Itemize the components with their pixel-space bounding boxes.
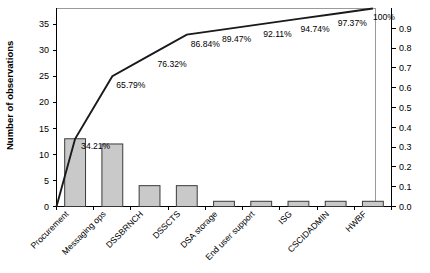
y2-tick-label-0: 0.0 (399, 202, 412, 212)
percent-label-2: 76.32% (158, 59, 188, 69)
percent-label-0: 34.21% (81, 141, 111, 151)
percent-label-8: 100% (373, 12, 395, 22)
y-tick-label-1: 5 (44, 176, 49, 186)
y-tick-label-6: 30 (39, 45, 49, 55)
percent-label-6: 94.74% (300, 24, 330, 34)
chart-canvas: Number of observations 05101520253035 0.… (0, 0, 430, 273)
bar-1 (102, 144, 123, 207)
y-tick-label-5: 25 (39, 71, 49, 81)
percent-label-1: 65.79% (116, 80, 146, 90)
percent-label-4: 89.47% (222, 34, 252, 44)
y-tick-label-4: 20 (39, 97, 49, 107)
pareto-chart: Number of observations 05101520253035 0.… (0, 0, 430, 273)
y2-tick-label-7: 0.7 (399, 63, 412, 73)
y2-tick-label-1: 0.1 (399, 182, 412, 192)
y-tick-label-3: 15 (39, 124, 49, 134)
y-tick-label-7: 35 (39, 19, 49, 29)
bar-2 (139, 186, 160, 207)
y2-tick-label-3: 0.3 (399, 142, 412, 152)
y-tick-label-2: 10 (39, 150, 49, 160)
bar-3 (176, 186, 197, 207)
percent-label-7: 97.37% (338, 18, 368, 28)
y2-tick-label-2: 0.2 (399, 162, 412, 172)
percent-label-3: 86.84% (191, 39, 221, 49)
y-tick-label-0: 0 (44, 202, 49, 212)
bar-6 (288, 201, 309, 206)
y2-tick-label-6: 0.6 (399, 83, 412, 93)
y2-tick-label-9: 0.9 (399, 24, 412, 34)
y2-tick-label-5: 0.5 (399, 103, 412, 113)
bar-7 (325, 201, 346, 206)
y-axis-title: Number of observations (4, 41, 15, 150)
bar-5 (251, 201, 272, 206)
y2-tick-label-4: 0.4 (399, 123, 412, 133)
bar-4 (214, 201, 235, 206)
y2-tick-label-8: 0.8 (399, 43, 412, 53)
bar-8 (362, 201, 383, 206)
percent-label-5: 92.11% (263, 29, 292, 39)
